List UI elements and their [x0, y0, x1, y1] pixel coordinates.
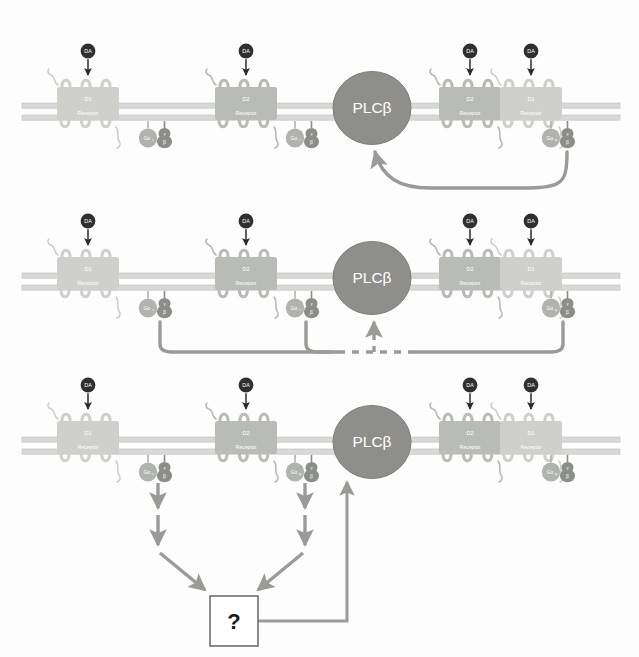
receptor-n-terminus: [206, 403, 216, 419]
receptor-1[interactable]: D1Receptor: [48, 69, 120, 148]
receptor-helix-loop-top: [444, 250, 452, 257]
receptor-1[interactable]: D1Receptor: [48, 239, 120, 318]
receptor-helix-loop-top: [545, 80, 553, 87]
g-alpha-subscript: s: [152, 138, 154, 142]
receptor-label-line2: Receptor: [235, 280, 256, 286]
receptor-helix-loop-top: [464, 250, 472, 257]
receptor-label-line1: D2: [466, 96, 473, 102]
receptor-label-line2: Receptor: [459, 280, 480, 286]
dopamine-label: DA: [242, 48, 250, 54]
dopamine-ligand[interactable]: DA: [463, 214, 478, 245]
g-protein-2[interactable]: Gαiβγ: [286, 291, 319, 318]
g-alpha-label: Gα: [290, 135, 297, 141]
dopamine-ligand[interactable]: DA: [239, 378, 254, 409]
g-protein-1[interactable]: Gαsβγ: [139, 291, 172, 318]
receptor-helix-loop-bottom: [504, 454, 512, 461]
receptor-c-terminus: [498, 297, 502, 318]
receptor-helix-loop-top: [82, 80, 90, 87]
receptor-helix-loop-top: [505, 80, 513, 87]
receptor-label-line2: Receptor: [235, 444, 256, 450]
receptor-helix-loop-bottom: [239, 290, 247, 297]
g-alpha-label: Gα: [546, 469, 553, 475]
receptor-helix-loop-top: [102, 414, 110, 421]
plcb-label: PLCβ: [352, 433, 391, 450]
dopamine-ligand[interactable]: DA: [463, 44, 478, 75]
g-alpha-label: Gα: [143, 135, 150, 141]
receptor-helix-loop-top: [102, 80, 110, 87]
receptor-helix-loop-bottom: [102, 120, 110, 127]
receptor-label-line1: D2: [466, 430, 473, 436]
g-protein-2[interactable]: Gαiβγ: [286, 121, 319, 148]
receptor-label-line2: Receptor: [520, 110, 541, 116]
plcb-effector[interactable]: PLCβ: [333, 406, 411, 479]
dopamine-label: DA: [84, 382, 92, 388]
receptor-helix-loop-top: [240, 250, 248, 257]
receptor-helix-loop-bottom: [219, 454, 227, 461]
dopamine-ligand[interactable]: DA: [524, 378, 539, 409]
g-alpha-subscript: q: [555, 472, 557, 476]
receptor-c-terminus: [116, 297, 120, 318]
receptor-label-line2: Receptor: [520, 280, 541, 286]
arrow-unknown-to-plcb: [258, 482, 347, 621]
receptor-helix-loop-top: [102, 250, 110, 257]
receptor-helix-loop-bottom: [102, 290, 110, 297]
receptor-helix-loop-bottom: [443, 290, 451, 297]
receptor-helix-loop-bottom: [504, 120, 512, 127]
receptor-label-line2: Receptor: [77, 110, 98, 116]
receptor-3[interactable]: D2Receptor: [430, 69, 502, 148]
dopamine-ligand[interactable]: DA: [81, 378, 96, 409]
receptor-2[interactable]: D2Receptor: [206, 403, 278, 482]
receptor-helix-loop-top: [484, 250, 492, 257]
g-alpha-subscript: q: [555, 138, 557, 142]
g-alpha-label: Gα: [143, 469, 150, 475]
g-alpha-label: Gα: [546, 305, 553, 311]
receptor-2[interactable]: D2Receptor: [206, 69, 278, 148]
receptor-helix-loop-top: [62, 80, 70, 87]
g-alpha-label: Gα: [143, 305, 150, 311]
receptor-n-terminus: [430, 69, 440, 85]
receptor-helix-loop-top: [545, 414, 553, 421]
g-protein-2[interactable]: Gαqβγ: [286, 455, 319, 482]
dopamine-ligand[interactable]: DA: [81, 214, 96, 245]
receptor-n-terminus: [430, 239, 440, 255]
plcb-effector[interactable]: PLCβ: [333, 242, 411, 315]
g-alpha-label: Gα: [290, 305, 297, 311]
g-protein-1[interactable]: Gαsβγ: [139, 121, 172, 148]
receptor-helix-loop-bottom: [239, 454, 247, 461]
dopamine-ligand[interactable]: DA: [524, 214, 539, 245]
receptor-helix-loop-top: [525, 414, 533, 421]
plcb-label: PLCβ: [352, 269, 391, 286]
receptor-c-terminus: [498, 127, 502, 148]
receptor-1[interactable]: D1Receptor: [48, 403, 120, 482]
g-beta-label: β: [163, 309, 166, 315]
receptor-label-line2: Receptor: [520, 444, 541, 450]
receptor-3[interactable]: D2Receptor: [430, 403, 502, 482]
dopamine-label: DA: [242, 382, 250, 388]
dopamine-label: DA: [527, 382, 535, 388]
plcb-label: PLCβ: [352, 99, 391, 116]
receptor-2[interactable]: D2Receptor: [206, 239, 278, 318]
receptor-n-terminus: [430, 403, 440, 419]
dopamine-ligand[interactable]: DA: [239, 44, 254, 75]
receptor-helix-loop-bottom: [463, 290, 471, 297]
dopamine-ligand[interactable]: DA: [239, 214, 254, 245]
g-alpha-subscript: s: [152, 308, 154, 312]
receptor-label-line1: D1: [527, 430, 534, 436]
receptor-helix-loop-top: [220, 80, 228, 87]
unknown-mediator-node[interactable]: ?: [210, 596, 258, 646]
receptor-helix-loop-bottom: [504, 290, 512, 297]
dopamine-ligand[interactable]: DA: [81, 44, 96, 75]
g-protein-1[interactable]: Gαsβγ: [139, 455, 172, 482]
g-alpha-label: Gα: [546, 135, 553, 141]
receptor-helix-loop-top: [505, 414, 513, 421]
receptor-helix-loop-top: [444, 414, 452, 421]
g-alpha-subscript: q: [555, 308, 557, 312]
dopamine-ligand[interactable]: DA: [524, 44, 539, 75]
receptor-helix-loop-top: [62, 250, 70, 257]
receptor-3[interactable]: D2Receptor: [430, 239, 502, 318]
dopamine-label: DA: [527, 48, 535, 54]
receptor-helix-loop-bottom: [524, 454, 532, 461]
dopamine-ligand[interactable]: DA: [463, 378, 478, 409]
receptor-label-line1: D2: [242, 430, 249, 436]
plcb-effector[interactable]: PLCβ: [333, 72, 411, 145]
